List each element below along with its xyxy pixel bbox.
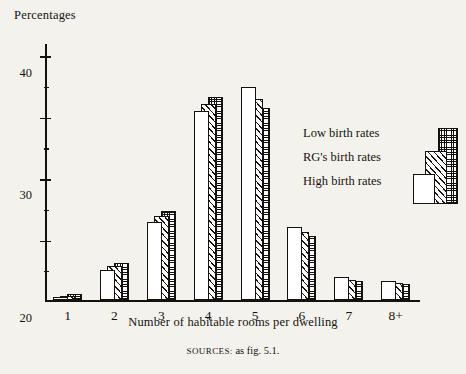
y-tick-label-40: 40 — [20, 65, 33, 80]
y-tick-40: 40 — [40, 56, 51, 57]
x-axis-title: Number of habitable rooms per dwelling — [0, 315, 466, 330]
legend-key-high-birth-rates — [413, 174, 435, 204]
y-tick-10: 10 — [40, 241, 51, 242]
bar-high-8plus — [381, 281, 396, 301]
source-prefix: SOURCES: — [187, 346, 233, 356]
y-tick-30: 30 — [40, 118, 51, 119]
bar-high-4 — [194, 111, 209, 300]
bar-group-5 — [241, 42, 270, 300]
y-tick-20: 20 — [40, 179, 51, 180]
bar-high-3 — [147, 222, 162, 301]
bar-group-3 — [147, 42, 176, 300]
y-axis-title: Percentages — [14, 8, 76, 23]
bar-group-4 — [194, 42, 223, 300]
legend-item-rgs-birth-rates: RG's birth rates — [303, 150, 381, 165]
x-axis-line — [45, 300, 420, 302]
y-minor-tick-5 — [44, 271, 49, 272]
bar-group-1 — [53, 42, 82, 300]
figure-chart: Percentages 1020304012345678+ Number of … — [0, 0, 466, 374]
source-text: as fig. 5.1. — [233, 345, 280, 356]
legend-key-group — [413, 120, 463, 204]
bar-high-2 — [100, 270, 115, 301]
bar-high-6 — [287, 227, 302, 300]
legend-item-high-birth-rates: High birth rates — [303, 174, 381, 189]
legend-item-low-birth-rates: Low birth rates — [303, 126, 379, 141]
bar-high-7 — [334, 277, 349, 300]
bar-group-2 — [100, 42, 129, 300]
bar-high-5 — [241, 87, 256, 300]
y-axis-line — [45, 44, 47, 302]
bar-high-1 — [53, 297, 68, 301]
legend: Low birth rates RG's birth rates High bi… — [303, 126, 463, 212]
source-note: SOURCES: as fig. 5.1. — [0, 345, 466, 356]
y-minor-tick-15 — [44, 210, 49, 211]
y-minor-tick-25 — [44, 148, 49, 149]
y-tick-label-30: 30 — [20, 188, 33, 203]
y-minor-tick-35 — [44, 87, 49, 88]
